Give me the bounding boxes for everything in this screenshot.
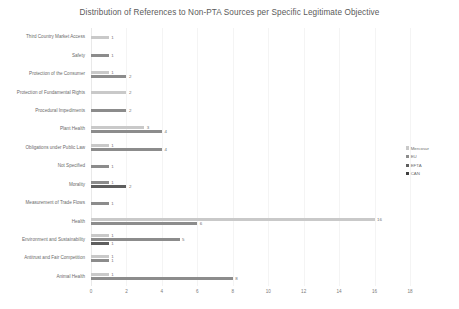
bar-row: 1 — [91, 234, 410, 237]
bar — [91, 234, 109, 237]
chart-legend: MercosurEUEFTACAN — [406, 144, 456, 178]
y-axis-category-label: Safety — [72, 53, 85, 59]
legend-item[interactable]: EU — [406, 153, 456, 161]
bar-value-label: 8 — [235, 277, 237, 280]
y-axis-category-label: Third Country Market Access — [26, 34, 85, 40]
x-axis-tick-label: 12 — [301, 289, 306, 294]
bar — [91, 185, 126, 188]
x-axis-tick-label: 0 — [90, 289, 93, 294]
bar — [91, 54, 109, 57]
bar-value-label: 1 — [111, 70, 113, 73]
y-axis-category-label: Health — [72, 219, 85, 225]
bar — [91, 36, 109, 39]
y-axis-category-labels: Third Country Market AccessSafetyProtect… — [0, 28, 88, 286]
x-axis-tick-label: 8 — [231, 289, 234, 294]
bar-value-label: 3 — [147, 125, 149, 128]
bar-row: 1 — [91, 54, 410, 57]
bar-row: 1 — [91, 71, 410, 74]
x-axis-tick-label: 16 — [372, 289, 377, 294]
y-axis-category-label: Not Specified — [58, 163, 85, 169]
bar — [91, 181, 109, 184]
bar — [91, 165, 109, 168]
bar-value-label: 2 — [129, 91, 131, 94]
x-axis-tick-label: 4 — [161, 289, 164, 294]
legend-item[interactable]: Mercosur — [406, 144, 456, 152]
legend-swatch-icon — [406, 146, 409, 149]
bar-row: 16 — [91, 218, 410, 221]
bar-row: 2 — [91, 91, 410, 94]
bar — [91, 259, 109, 262]
bar-row: 2 — [91, 75, 410, 78]
bar — [91, 91, 126, 94]
legend-label: Mercosur — [411, 146, 429, 151]
y-axis-category-label: Environment and Sustainability — [22, 237, 85, 243]
x-axis-tick-label: 6 — [196, 289, 199, 294]
legend-item[interactable]: CAN — [406, 170, 456, 178]
bar-row: 1 — [91, 181, 410, 184]
legend-item[interactable]: EFTA — [406, 161, 456, 169]
bar-value-label: 2 — [129, 109, 131, 112]
x-axis-tick-label: 10 — [266, 289, 271, 294]
legend-label: CAN — [411, 171, 420, 176]
bar-value-label: 4 — [164, 129, 166, 132]
bar — [91, 71, 109, 74]
bar — [91, 148, 162, 151]
y-axis-category-label: Antitrust and Fair Competition — [24, 255, 85, 261]
bar — [91, 277, 233, 280]
bar-row: 6 — [91, 222, 410, 225]
bar — [91, 75, 126, 78]
bar-value-label: 1 — [111, 273, 113, 276]
bar-value-label: 16 — [377, 218, 382, 221]
bar — [91, 126, 144, 129]
legend-label: EU — [411, 154, 417, 159]
chart-title: Distribution of References to Non-PTA So… — [0, 8, 459, 17]
bar — [91, 238, 180, 241]
x-axis-tick-label: 14 — [337, 289, 342, 294]
bar-value-label: 1 — [111, 164, 113, 167]
bar — [91, 222, 197, 225]
bar-row: 1 — [91, 202, 410, 205]
legend-label: EFTA — [411, 163, 422, 168]
bar-row: 1 — [91, 273, 410, 276]
bar — [91, 273, 109, 276]
bar-row: 1 — [91, 144, 410, 147]
bar-row: 3 — [91, 126, 410, 129]
bars-layer: 111222341411211661511118 — [91, 28, 410, 286]
y-axis-category-label: Obligations under Public Law — [26, 145, 86, 151]
y-axis-category-label: Morality — [69, 182, 85, 188]
bar-row: 1 — [91, 255, 410, 258]
bar — [91, 255, 109, 258]
y-axis-category-label: Protection of the Consumer — [29, 71, 85, 77]
x-axis-tick-label: 2 — [125, 289, 128, 294]
legend-swatch-icon — [406, 164, 409, 167]
y-axis-category-label: Measurement of Trade Flows — [26, 200, 86, 206]
y-axis-category-label: Plant Health — [60, 126, 85, 132]
bar — [91, 202, 109, 205]
bar-value-label: 6 — [200, 222, 202, 225]
x-axis-tick-label: 18 — [407, 289, 412, 294]
bar-value-label: 1 — [111, 181, 113, 184]
bar-value-label: 1 — [111, 242, 113, 245]
bar-row: 1 — [91, 36, 410, 39]
bar — [91, 130, 162, 133]
bar-value-label: 1 — [111, 144, 113, 147]
bar-row: 2 — [91, 185, 410, 188]
bar-value-label: 2 — [129, 185, 131, 188]
y-axis-category-label: Protection of Fundamental Rights — [17, 90, 85, 96]
bar-value-label: 5 — [182, 238, 184, 241]
y-axis-category-label: Procedural Impediments — [35, 108, 85, 114]
bar-row: 1 — [91, 165, 410, 168]
bar-value-label: 1 — [111, 234, 113, 237]
bar — [91, 109, 126, 112]
bar-row: 1 — [91, 242, 410, 245]
bar-row: 5 — [91, 238, 410, 241]
bar-row: 8 — [91, 277, 410, 280]
legend-swatch-icon — [406, 172, 409, 175]
bar — [91, 144, 109, 147]
chart-container: Distribution of References to Non-PTA So… — [0, 0, 459, 309]
bar — [91, 242, 109, 245]
bar-row: 4 — [91, 148, 410, 151]
bar-value-label: 1 — [111, 201, 113, 204]
bar-value-label: 4 — [164, 148, 166, 151]
bar-row: 1 — [91, 259, 410, 262]
